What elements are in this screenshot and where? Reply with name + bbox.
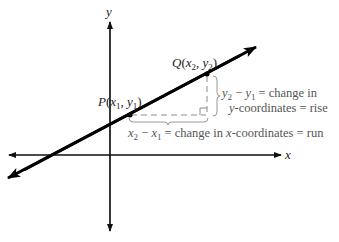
slope-diagram: x y P(x1, y1) Q(x2, y2) y2 − y1 = change… xyxy=(0,0,339,242)
rise-brace xyxy=(213,76,220,116)
x-axis-label: x xyxy=(284,147,291,162)
y-axis-label: y xyxy=(104,4,112,19)
rise-annotation-line2: y-coordinates = rise xyxy=(227,101,328,115)
run-annotation: x2 − x1 = change in x-coordinates = run xyxy=(127,126,324,142)
point-p xyxy=(128,113,133,118)
point-q-label: Q(x2, y2) xyxy=(172,55,217,72)
rise-annotation-line1: y2 − y1 = change in xyxy=(220,86,318,102)
run-brace xyxy=(129,118,208,125)
line-through-p-and-q xyxy=(8,47,256,178)
point-q xyxy=(205,72,210,77)
right-angle-marker xyxy=(200,108,207,115)
point-p-label: P(x1, y1) xyxy=(97,94,142,111)
